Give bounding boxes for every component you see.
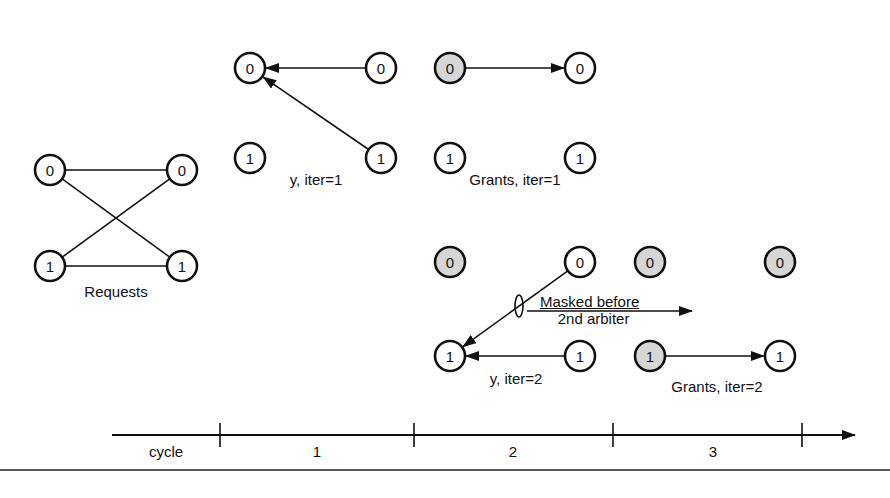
masked-annotation-line1: Masked before bbox=[540, 293, 639, 310]
node-label: 1 bbox=[646, 348, 654, 365]
node-y1-r1: 1 bbox=[366, 143, 396, 173]
node-req-out-0: 0 bbox=[167, 155, 197, 185]
node-g2-r1: 1 bbox=[765, 341, 795, 371]
nodes-layer: 00110011001100110011 bbox=[35, 53, 795, 371]
node-g2-r0: 0 bbox=[765, 247, 795, 277]
masked-annotation: Masked before 2nd arbiter bbox=[540, 293, 639, 327]
node-y2-r0: 0 bbox=[565, 247, 595, 277]
node-label: 0 bbox=[246, 60, 254, 77]
masked-annotation-line2: 2nd arbiter bbox=[540, 310, 639, 327]
node-y2-r1: 1 bbox=[565, 341, 595, 371]
node-g1-r0: 0 bbox=[565, 53, 595, 83]
node-label: 0 bbox=[446, 254, 454, 271]
node-g1-r1: 1 bbox=[565, 143, 595, 173]
node-label: 1 bbox=[246, 150, 254, 167]
cycle-label-3: 3 bbox=[709, 443, 717, 460]
node-label: 0 bbox=[776, 254, 784, 271]
node-g2-l0: 0 bbox=[635, 247, 665, 277]
node-label: 1 bbox=[576, 150, 584, 167]
node-label: 1 bbox=[446, 150, 454, 167]
node-req-in-1: 1 bbox=[35, 251, 65, 281]
node-y1-l1: 1 bbox=[235, 143, 265, 173]
y-iter2-label: y, iter=2 bbox=[490, 370, 543, 387]
edges-layer bbox=[62, 68, 764, 356]
node-y2-l0: 0 bbox=[435, 247, 465, 277]
node-label: 0 bbox=[377, 60, 385, 77]
node-label: 0 bbox=[576, 254, 584, 271]
node-label: 0 bbox=[178, 162, 186, 179]
iterative-matching-diagram: 00110011001100110011 bbox=[0, 0, 890, 498]
cycle-label-2: 2 bbox=[509, 443, 517, 460]
node-g1-l0: 0 bbox=[435, 53, 465, 83]
node-label: 0 bbox=[646, 254, 654, 271]
node-g1-l1: 1 bbox=[435, 143, 465, 173]
grants-iter2-label: Grants, iter=2 bbox=[671, 378, 762, 395]
node-label: 0 bbox=[446, 60, 454, 77]
node-label: 0 bbox=[576, 60, 584, 77]
node-label: 1 bbox=[377, 150, 385, 167]
node-label: 0 bbox=[46, 162, 54, 179]
requests-label: Requests bbox=[84, 283, 147, 300]
node-req-out-1: 1 bbox=[167, 251, 197, 281]
arrow-y1-r1-to-y1-l0 bbox=[263, 77, 368, 149]
node-y1-l0: 0 bbox=[235, 53, 265, 83]
node-label: 1 bbox=[776, 348, 784, 365]
node-y2-l1: 1 bbox=[435, 341, 465, 371]
node-label: 1 bbox=[446, 348, 454, 365]
node-label: 1 bbox=[46, 258, 54, 275]
cycle-label-1: 1 bbox=[313, 443, 321, 460]
node-g2-l1: 1 bbox=[635, 341, 665, 371]
timeline-axis-label: cycle bbox=[149, 443, 183, 460]
node-y1-r0: 0 bbox=[366, 53, 396, 83]
node-label: 1 bbox=[178, 258, 186, 275]
node-req-in-0: 0 bbox=[35, 155, 65, 185]
cycle-timeline bbox=[112, 423, 855, 447]
node-label: 1 bbox=[576, 348, 584, 365]
grants-iter1-label: Grants, iter=1 bbox=[469, 171, 560, 188]
y-iter1-label: y, iter=1 bbox=[290, 171, 343, 188]
